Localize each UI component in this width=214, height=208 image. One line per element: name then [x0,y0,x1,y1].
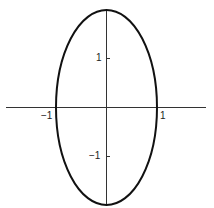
x-tick-label-1: 1 [160,111,166,121]
x-tick-label-neg1: −1 [41,111,52,121]
ellipse-plot [0,0,214,208]
y-tick-label-1: 1 [96,53,102,63]
y-tick-label-neg1: −1 [89,151,100,161]
